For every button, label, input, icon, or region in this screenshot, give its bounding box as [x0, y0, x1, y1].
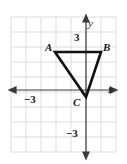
- y-axis-tick-negative-3: −3: [66, 128, 78, 139]
- y-axis-label: y: [88, 18, 93, 29]
- x-axis-arrow-left: [9, 87, 16, 93]
- x-axis-label: x: [108, 84, 113, 95]
- graph-canvas: [0, 0, 127, 164]
- vertex-label-b: B: [103, 42, 110, 53]
- y-axis-tick-3: 3: [74, 32, 80, 43]
- y-axis-arrow-down: [83, 152, 89, 159]
- vertex-label-a: A: [45, 42, 52, 53]
- grid-lines: [11, 17, 116, 152]
- x-axis-tick-negative-3: −3: [24, 94, 36, 105]
- coordinate-plane-figure: y x 3 −3 −3 A B C: [0, 0, 127, 164]
- vertex-label-c: C: [73, 97, 80, 108]
